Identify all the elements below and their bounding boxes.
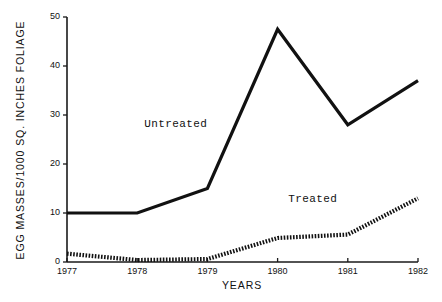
data-series (67, 29, 418, 260)
chart-figure: 01020304050 197719781979198019811982 Unt… (0, 0, 442, 302)
series-line-treated (67, 198, 418, 260)
series-label-untreated: Untreated (144, 118, 207, 130)
x-axis-tick-label: 1982 (408, 266, 428, 276)
chart-plot-area: 01020304050 197719781979198019811982 Unt… (0, 0, 442, 302)
y-axis-tick-label: 0 (55, 256, 60, 266)
x-axis-tick-label: 1981 (338, 266, 358, 276)
x-axis-title: YEARS (222, 279, 262, 291)
y-axis-tick-label: 50 (50, 11, 60, 21)
y-axis-tick-label: 30 (50, 109, 60, 119)
y-axis-tick-label: 20 (50, 158, 60, 168)
x-axis-tick-label: 1979 (197, 266, 217, 276)
x-axis-tick-label: 1978 (127, 266, 147, 276)
series-label-treated: Treated (288, 193, 337, 205)
x-axis-tick-label: 1977 (57, 266, 77, 276)
y-axis-title: EGG MASSES/1000 SQ. INCHES FOLIAGE (14, 21, 26, 260)
series-annotations: UntreatedTreated (144, 118, 337, 205)
y-axis-tick-label: 40 (50, 60, 60, 70)
x-axis-tick-label: 1980 (268, 266, 288, 276)
series-line-untreated (67, 29, 418, 213)
y-axis-ticks: 01020304050 (50, 11, 67, 266)
y-axis-tick-label: 10 (50, 207, 60, 217)
x-axis-ticks: 197719781979198019811982 (57, 258, 428, 276)
